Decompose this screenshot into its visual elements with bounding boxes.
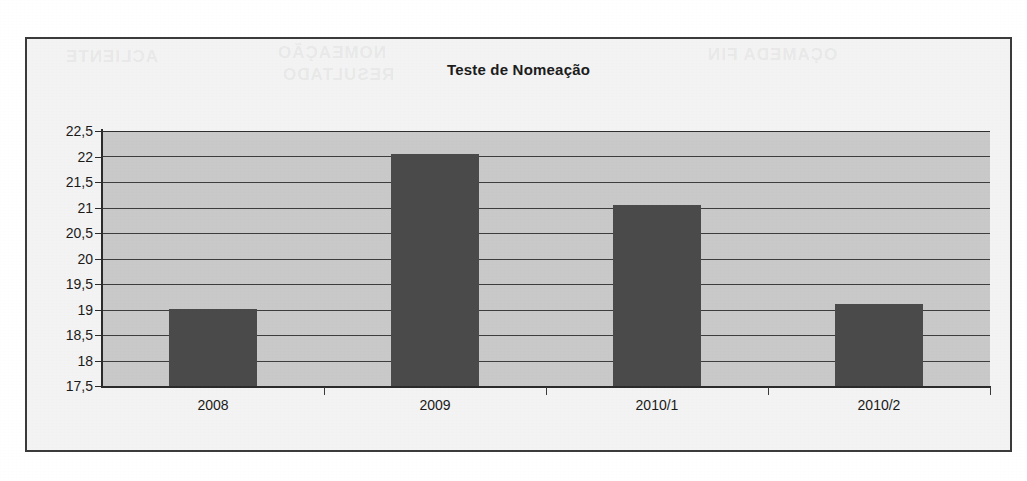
y-axis-tick xyxy=(95,131,102,132)
x-axis-category-label: 2008 xyxy=(197,397,228,413)
scanned-page: ACLIENTE NOMEAÇÃO RESULTADO OÇAMEDA FIN … xyxy=(0,0,1027,481)
y-axis-tick-label: 22 xyxy=(31,149,93,165)
y-axis-tick-label: 19 xyxy=(31,302,93,318)
plot-area xyxy=(102,131,990,386)
y-axis-tick xyxy=(95,208,102,209)
y-axis-tick xyxy=(95,310,102,311)
x-axis-tick xyxy=(546,387,547,395)
x-axis-category-label: 2010/1 xyxy=(636,397,679,413)
bar xyxy=(391,154,479,386)
bar xyxy=(613,205,701,386)
bar xyxy=(169,309,257,386)
chart-title: Teste de Nomeação xyxy=(27,61,1010,78)
y-axis-tick xyxy=(95,182,102,183)
y-axis-tick-label: 22,5 xyxy=(31,123,93,139)
y-axis-tick-label: 19,5 xyxy=(31,276,93,292)
y-axis-tick-labels: 22,52221,52120,52019,51918,51817,5 xyxy=(27,39,93,450)
y-axis-tick xyxy=(95,259,102,260)
y-axis-tick xyxy=(95,233,102,234)
chart-frame: ACLIENTE NOMEAÇÃO RESULTADO OÇAMEDA FIN … xyxy=(25,37,1012,452)
y-axis-tick-label: 18 xyxy=(31,353,93,369)
y-axis-tick-label: 20 xyxy=(31,251,93,267)
x-axis-category-label: 2009 xyxy=(419,397,450,413)
y-axis-tick-label: 20,5 xyxy=(31,225,93,241)
x-axis-tick xyxy=(768,387,769,395)
scan-bleed-artifact: NOMEAÇÃO xyxy=(277,43,386,63)
bar-series xyxy=(102,131,990,386)
y-axis-tick-label: 17,5 xyxy=(31,378,93,394)
x-axis-category-label: 2010/2 xyxy=(858,397,901,413)
y-axis-tick xyxy=(95,386,102,387)
y-axis-tick-label: 18,5 xyxy=(31,327,93,343)
x-axis-tick xyxy=(324,387,325,395)
y-axis-tick xyxy=(95,335,102,336)
y-axis-tick xyxy=(95,284,102,285)
y-axis-tick xyxy=(95,157,102,158)
x-axis-category-labels: 200820092010/12010/2 xyxy=(102,397,990,427)
y-axis-tick xyxy=(95,361,102,362)
y-axis-tick-label: 21,5 xyxy=(31,174,93,190)
bar xyxy=(835,304,923,386)
x-axis-tick xyxy=(990,387,991,395)
y-axis-tick-label: 21 xyxy=(31,200,93,216)
